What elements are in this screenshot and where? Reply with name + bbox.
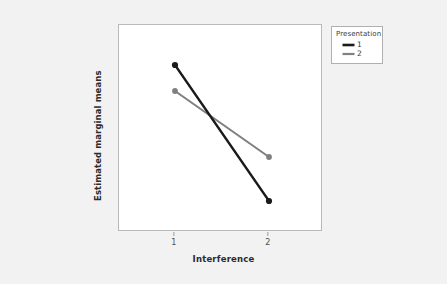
series-2-group [172,88,272,160]
y-axis-title: Estimated marginal means [93,70,103,201]
series-2-point-1 [172,88,178,94]
legend-label: 2 [357,50,362,58]
x-tick-label: 1 [171,238,176,247]
series-1-point-2 [266,198,272,204]
series-1-line [175,65,269,201]
series-layer [119,25,323,232]
x-axis-title: Interference [193,254,255,264]
x-axis-title-wrap: Interference [0,254,447,264]
legend-title: Presentation [336,30,378,38]
x-tick-mark [267,232,268,236]
legend: Presentation 1 2 [331,26,383,64]
legend-entry-2[interactable]: 2 [342,50,378,58]
plot-area [118,24,322,231]
x-tick-mark [173,232,174,236]
plot-inner [119,25,321,230]
legend-swatch-series-1-icon [342,41,355,49]
series-1-point-1 [172,62,178,68]
x-tick-1: 1 [171,232,176,247]
series-2-point-2 [266,154,272,160]
series-1-group [172,62,272,204]
chart-screenshot: 25 20 15 10 5 0 Estimated marginal means [0,0,447,284]
x-tick-label: 2 [265,238,270,247]
legend-entry-1[interactable]: 1 [342,41,378,49]
legend-swatch-series-2-icon [342,50,355,58]
x-tick-2: 2 [265,232,270,247]
series-2-line [175,91,269,157]
legend-label: 1 [357,41,362,49]
